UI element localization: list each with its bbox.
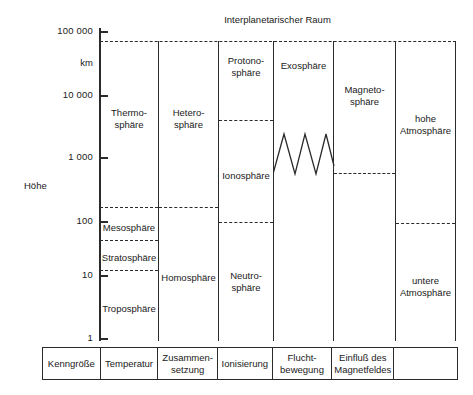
atmosphere-layers-diagram: Interplanetarischer Raum 100 000 10 000 … — [0, 0, 473, 395]
y-axis-label-10: 10 — [82, 269, 93, 280]
column-divider-3 — [273, 41, 274, 341]
layer-homosphaere: Homosphäre — [159, 272, 218, 284]
footer-cell-magnetfeld: Einfluß des Magnetfeldes — [332, 348, 394, 379]
boundary-interplanetary-space — [100, 41, 456, 42]
footer-cell-fluchtbewegung: Flucht- bewegung — [273, 348, 333, 379]
layer-protonosphaere: Protono- sphäre — [219, 55, 273, 78]
boundary-mesosphaere-stratosphaere — [100, 240, 158, 241]
layer-exosphaere: Exosphäre — [274, 60, 333, 72]
boundary-hohe-untere-atmosphaere — [396, 223, 455, 224]
exosphaere-zigzag-boundary — [273, 128, 335, 180]
y-axis-tick-1000 — [100, 157, 108, 159]
boundary-heterosphaere-homosphaere — [159, 207, 218, 208]
footer-cell-temperatur: Temperatur — [101, 348, 159, 379]
boundary-thermosphaere-mesosphaere — [100, 207, 158, 208]
layer-neutrosphaere: Neutro- sphäre — [219, 270, 273, 293]
footer-cell-kenngroesse: Kenngröße — [43, 348, 101, 379]
layer-magnetosphaere: Magneto- sphäre — [334, 84, 395, 107]
y-axis-label-100: 100 — [77, 215, 93, 226]
layer-untere-atmosphaere: untere Atmosphäre — [396, 275, 455, 298]
y-axis-label-10000: 10 000 — [63, 89, 93, 100]
top-caption: Interplanetarischer Raum — [100, 14, 455, 25]
footer-table: Kenngröße Temperatur Zusammen- setzung I… — [42, 347, 458, 380]
y-axis-title: Höhe — [24, 180, 47, 191]
y-axis-tick-10 — [100, 275, 108, 277]
layer-thermosphaere: Thermo- sphäre — [100, 107, 158, 130]
footer-cell-ionisierung: Ionisierung — [218, 348, 273, 379]
layer-heterosphaere: Hetero- sphäre — [159, 107, 218, 130]
layer-mesosphaere: Mesosphäre — [100, 222, 158, 234]
column-divider-right-edge — [455, 41, 456, 341]
y-axis-label-1000: 1 000 — [68, 151, 93, 162]
y-axis-label-1: 1 — [88, 332, 93, 343]
layer-hohe-atmosphaere: hohe Atmosphäre — [396, 113, 455, 136]
boundary-protonosphaere-ionosphaere — [219, 120, 273, 121]
y-axis-tick-100000 — [100, 31, 108, 33]
y-axis-label-100000: 100 000 — [57, 25, 93, 36]
y-axis-unit: km — [80, 57, 93, 68]
y-axis-tick-10000 — [100, 95, 108, 97]
layer-ionosphaere: Ionosphäre — [219, 170, 273, 182]
layer-stratosphaere: Stratosphäre — [100, 252, 158, 264]
column-divider-1 — [158, 41, 159, 341]
boundary-stratosphaere-troposphaere — [100, 270, 158, 271]
boundary-magnetosphaere-lower — [334, 173, 395, 174]
layer-troposphaere: Troposphäre — [100, 303, 158, 315]
column-divider-2 — [218, 41, 219, 341]
y-axis-tick-1 — [100, 338, 108, 340]
footer-cell-zusammensetzung: Zusammen- setzung — [158, 348, 218, 379]
boundary-ionosphaere-neutrosphaere — [219, 222, 273, 223]
y-axis-line — [99, 28, 101, 341]
footer-cell-empty — [394, 348, 457, 379]
